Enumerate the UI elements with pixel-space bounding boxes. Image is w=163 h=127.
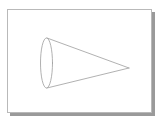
figure-description: Line drawing of a cone lying on its side…	[0, 0, 1, 1]
figure-canvas: Cone Line drawing of a cone lying on its…	[0, 0, 163, 127]
figure-title: Cone	[0, 0, 1, 1]
figure-panel	[7, 9, 152, 113]
